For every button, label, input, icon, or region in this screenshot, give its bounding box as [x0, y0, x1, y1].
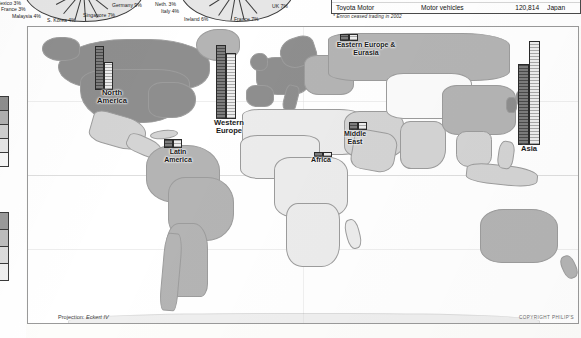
- pie-label-germany: Germany 9%: [112, 2, 142, 8]
- bars-latin-america: [164, 138, 182, 148]
- projection-note: Projection: Eckert IV: [58, 314, 109, 320]
- region-label-line1: Eastern Europe &: [318, 41, 414, 49]
- projection-name: Eckert IV: [86, 314, 109, 320]
- bar-import-western-europe: [216, 45, 226, 119]
- region-label-line1: Latin: [150, 148, 206, 156]
- landmass-southeast-asia: [456, 131, 492, 167]
- region-label-africa: Africa: [300, 156, 342, 164]
- pie-label-s-korea: S. Korea 4%: [47, 17, 76, 23]
- projection-note-prefix: Projection:: [58, 314, 84, 320]
- bar-export-latin-america: [173, 139, 182, 148]
- pie-label-netherlands: Neth. 3%: [155, 1, 176, 7]
- bars-western-europe: [216, 43, 236, 119]
- landmass-iberia: [246, 85, 274, 107]
- landmass-korea: [506, 97, 517, 113]
- legend-swatch-2: [0, 263, 9, 281]
- bars-asia: [518, 39, 540, 145]
- left-margin-column: 0 S n ) s ORT: [0, 22, 26, 338]
- bar-export-western-europe: [226, 53, 236, 119]
- landmass-china: [442, 85, 516, 135]
- landmass-antarctica: [68, 313, 540, 324]
- legend-swatch-2: [0, 246, 9, 264]
- region-label-line1: Middle: [332, 130, 378, 138]
- pie-label-france-2: France 7%: [234, 16, 259, 22]
- region-label-asia: Asia: [510, 145, 548, 153]
- table-cell-company: Toyota Motor: [332, 4, 421, 11]
- region-label-north-america: North America: [82, 89, 142, 106]
- pie-label-singapore: Singapore 7%: [83, 12, 115, 18]
- table-row: Toyota Motor Motor vehicles 120,814 Japa…: [332, 2, 580, 13]
- legend-swatch: [0, 138, 9, 153]
- legend-swatch: [0, 124, 9, 139]
- pie-label-italy: Italy 4%: [161, 8, 179, 14]
- table-cell-value: 120,814: [498, 4, 547, 11]
- legend-swatch-2: [0, 229, 9, 247]
- landmass-india: [400, 121, 446, 169]
- pie-label-france: France 3%: [1, 6, 26, 12]
- legend-swatch-2: [0, 212, 9, 230]
- table-footnote: * Enron ceased trading in 2002: [333, 14, 402, 19]
- landmass-southern-africa: [286, 203, 340, 267]
- table-cell-country: Japan: [547, 4, 580, 11]
- landmass-australia: [480, 209, 558, 263]
- region-label-line2: America: [150, 156, 206, 164]
- landmass-usa-east: [148, 82, 196, 118]
- legend-swatch: [0, 152, 9, 167]
- region-label-western-europe: Western Europe: [200, 119, 258, 136]
- bar-import-middle-east: [349, 122, 358, 130]
- bar-import-north-america: [95, 46, 104, 90]
- legend-swatch: [0, 96, 9, 111]
- region-label-line2: Europe: [200, 127, 258, 135]
- region-label-line2: America: [82, 97, 142, 105]
- bars-eastern-europe-eurasia: [340, 33, 358, 41]
- legend-swatch: [0, 110, 9, 125]
- atlas-page: Mexico 3% France 3% Malaysia 4% S. Korea…: [0, 0, 581, 338]
- region-label-line1: Asia: [510, 145, 548, 153]
- region-label-line2: East: [332, 138, 378, 146]
- region-label-line1: Africa: [300, 156, 342, 164]
- bar-import-latin-america: [164, 139, 173, 148]
- region-label-middle-east: Middle East: [332, 130, 378, 146]
- world-map: North America Latin America Western Euro…: [27, 26, 579, 324]
- bar-export-middle-east: [358, 122, 367, 130]
- bar-export-eastern-europe: [349, 34, 358, 41]
- pie-label-malaysia: Malaysia 4%: [12, 13, 41, 19]
- landmass-british-isles: [250, 53, 268, 71]
- pie-label-uk: UK 7%: [272, 3, 288, 9]
- table-cell-industry: Motor vehicles: [421, 4, 498, 11]
- bar-import-eastern-europe: [340, 34, 349, 41]
- bar-export-asia: [529, 41, 540, 145]
- landmass-alaska: [42, 37, 80, 61]
- bars-north-america: [95, 44, 113, 90]
- copyright-notice: COPYRIGHT PHILIP'S: [519, 315, 574, 320]
- bar-export-north-america: [104, 62, 113, 90]
- top-strip: Mexico 3% France 3% Malaysia 4% S. Korea…: [0, 0, 581, 26]
- pie-label-ireland: Ireland 6%: [184, 16, 208, 22]
- bars-middle-east: [349, 121, 367, 130]
- bar-import-asia: [518, 64, 529, 145]
- region-label-eastern-europe-eurasia: Eastern Europe & Eurasia: [318, 41, 414, 57]
- region-label-latin-america: Latin America: [150, 148, 206, 164]
- top-companies-table: Toyota Motor Motor vehicles 120,814 Japa…: [331, 0, 581, 14]
- region-label-line2: Eurasia: [318, 49, 414, 57]
